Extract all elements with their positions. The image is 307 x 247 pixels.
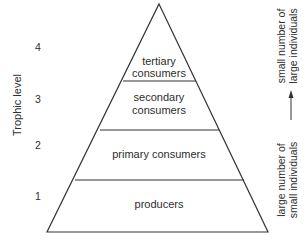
trophic-number-1: 1 bbox=[35, 190, 41, 202]
annotation-bottom-line1: large number of bbox=[275, 143, 287, 217]
level-1-label: producers bbox=[135, 198, 184, 210]
level-2-label: primary consumers bbox=[112, 148, 206, 160]
level-4-label-line1: tertiary bbox=[142, 55, 176, 67]
annotation-top-line1: small number of bbox=[275, 9, 287, 84]
y-axis-title: Trophic level bbox=[11, 74, 23, 136]
level-4-label-line2: consumers bbox=[132, 67, 186, 79]
trophic-number-4: 4 bbox=[35, 41, 41, 53]
annotation-bottom-line2: small individuals bbox=[287, 142, 299, 218]
level-3-label-line2: consumers bbox=[132, 104, 186, 116]
trophic-number-3: 3 bbox=[35, 93, 41, 105]
level-3-label-line1: secondary bbox=[134, 91, 185, 103]
annotation-top-line2: large individuals bbox=[287, 8, 299, 83]
arrow-up-icon bbox=[289, 90, 294, 120]
pyramid-diagram: tertiary consumers secondary consumers p… bbox=[0, 0, 307, 247]
trophic-number-2: 2 bbox=[35, 139, 41, 151]
